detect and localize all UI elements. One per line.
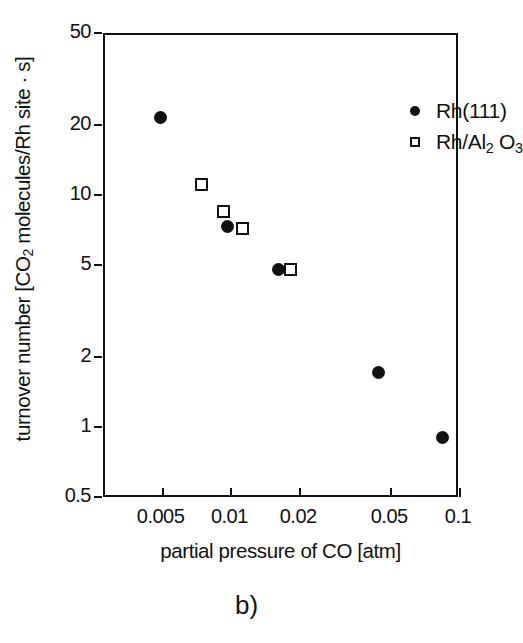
legend-entry-rh-alumina: Rh/Al2 O3: [410, 128, 523, 156]
x-axis-tick-mark: [299, 488, 301, 497]
y-axis-title-pre: turnover number [CO: [11, 256, 34, 441]
y-axis-tick-label-10: 10: [70, 182, 91, 205]
y-axis-title-subscript: 2: [20, 249, 36, 256]
data-point-rh-alumina-0: [195, 178, 208, 191]
data-point-rh-alumina-2: [236, 222, 249, 235]
x-axis-tick-mark: [390, 488, 392, 497]
y-axis-tick-mark: [94, 426, 102, 428]
data-point-rh111-1: [221, 220, 234, 233]
legend-marker-filled-circle-icon: [410, 106, 436, 116]
y-axis-tick-label-1: 1: [80, 414, 91, 437]
data-point-rh111-3: [372, 366, 385, 379]
data-point-rh-alumina-3: [284, 263, 297, 276]
x-axis-tick-label-0-02: 0.02: [258, 505, 338, 528]
data-point-rh111-0: [154, 111, 167, 124]
y-axis-tick-label-50: 50: [70, 20, 91, 43]
y-axis-tick-label-2: 2: [80, 344, 91, 367]
y-axis-tick-mark: [94, 356, 102, 358]
y-axis-tick-label-0-5: 0.5: [65, 484, 91, 507]
x-axis-tick-mark: [459, 488, 461, 497]
data-point-rh-alumina-1: [217, 205, 230, 218]
data-point-rh111-4: [436, 431, 449, 444]
x-axis-tick-label-0-1: 0.1: [418, 505, 498, 528]
legend: Rh(111) Rh/Al2 O3: [410, 97, 523, 159]
legend-entry-rh111: Rh(111): [410, 97, 523, 125]
y-axis-tick-mark: [94, 194, 102, 196]
x-axis-tick-mark: [230, 488, 232, 497]
y-axis-tick-mark: [94, 264, 102, 266]
y-axis-title: turnover number [CO2 molecules/Rh site ·…: [0, 0, 46, 497]
y-axis-tick-label-20: 20: [70, 112, 91, 135]
y-axis-title-post: molecules/Rh site · s]: [11, 56, 34, 248]
legend-label-rh-alumina: Rh/Al2 O3: [436, 130, 523, 154]
y-axis-tick-mark: [94, 32, 102, 34]
y-axis-tick-mark: [94, 124, 102, 126]
data-point-rh111-2: [272, 263, 285, 276]
panel-caption: b): [0, 590, 493, 621]
legend-marker-open-square-icon: [410, 137, 436, 147]
x-axis-title: partial pressure of CO [atm]: [103, 539, 458, 563]
plot-area: Rh(111) Rh/Al2 O3: [103, 33, 458, 497]
legend-label-rh111: Rh(111): [436, 99, 507, 123]
y-axis-tick-label-5: 5: [80, 252, 91, 275]
y-axis-tick-mark: [94, 496, 102, 498]
x-axis-tick-mark: [162, 488, 164, 497]
